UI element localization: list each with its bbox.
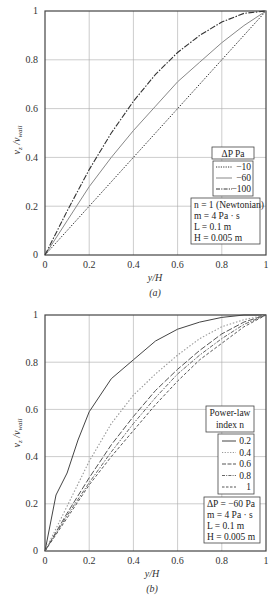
svg-text:−60: −60 bbox=[236, 173, 251, 183]
panel-b-y-ticks: 0 0.2 0.4 0.6 0.8 1 bbox=[26, 309, 39, 556]
svg-text:1: 1 bbox=[246, 482, 251, 492]
svg-text:0.8: 0.8 bbox=[26, 54, 39, 65]
panel-a: 0 0.2 0.4 0.6 0.8 1 0 0.2 0.4 0.6 0.8 1 … bbox=[11, 5, 269, 299]
svg-text:0.6: 0.6 bbox=[26, 404, 39, 415]
svg-text:0.4: 0.4 bbox=[26, 152, 39, 163]
svg-text:0: 0 bbox=[33, 249, 38, 260]
svg-text:n = 1 (Newtonian): n = 1 (Newtonian) bbox=[194, 200, 264, 211]
svg-text:Power-law: Power-law bbox=[210, 408, 251, 418]
svg-text:H = 0.005 m: H = 0.005 m bbox=[207, 532, 256, 542]
panel-a-y-label: vz /vwall bbox=[11, 125, 24, 154]
panel-b-x-ticks: 0 0.2 0.4 0.6 0.8 1 bbox=[43, 555, 269, 566]
svg-text:0.4: 0.4 bbox=[127, 555, 140, 566]
panel-a-params-box: n = 1 (Newtonian) m = 4 Pa · s L = 0.1 m… bbox=[191, 198, 264, 244]
svg-text:L = 0.1 m: L = 0.1 m bbox=[194, 222, 232, 232]
figure: 0 0.2 0.4 0.6 0.8 1 0 0.2 0.4 0.6 0.8 1 … bbox=[0, 0, 277, 600]
svg-text:0.2: 0.2 bbox=[26, 498, 39, 509]
svg-text:1: 1 bbox=[33, 309, 38, 320]
panel-b-x-label: y/H bbox=[144, 568, 160, 579]
panel-b-y-label: vz /vwall bbox=[11, 418, 24, 447]
svg-text:0.4: 0.4 bbox=[26, 451, 39, 462]
svg-text:0.6: 0.6 bbox=[171, 259, 184, 270]
svg-text:m = 4 Pa · s: m = 4 Pa · s bbox=[207, 510, 253, 520]
svg-text:−100: −100 bbox=[231, 184, 251, 194]
svg-text:0.8: 0.8 bbox=[216, 259, 229, 270]
panel-a-x-ticks: 0 0.2 0.4 0.6 0.8 1 bbox=[43, 259, 269, 270]
svg-text:ΔP = −60 Pa: ΔP = −60 Pa bbox=[207, 499, 256, 509]
legend-title: ΔP Pa bbox=[222, 149, 246, 159]
panel-b: 0 0.2 0.4 0.6 0.8 1 0 0.2 0.4 0.6 0.8 1 … bbox=[11, 309, 269, 595]
svg-text:0.6: 0.6 bbox=[171, 555, 184, 566]
svg-text:0.2: 0.2 bbox=[83, 259, 96, 270]
svg-text:0: 0 bbox=[43, 259, 48, 270]
panel-a-x-label: y/H bbox=[147, 272, 163, 283]
svg-text:0: 0 bbox=[43, 555, 48, 566]
svg-text:0.2: 0.2 bbox=[26, 201, 39, 212]
svg-text:−10: −10 bbox=[236, 162, 251, 172]
svg-text:1: 1 bbox=[264, 555, 269, 566]
svg-text:0.6: 0.6 bbox=[239, 459, 251, 469]
svg-text:0.8: 0.8 bbox=[239, 471, 251, 481]
svg-text:0.2: 0.2 bbox=[239, 436, 251, 446]
svg-text:H = 0.005 m: H = 0.005 m bbox=[194, 233, 243, 243]
svg-text:1: 1 bbox=[33, 5, 38, 16]
svg-text:0: 0 bbox=[33, 545, 38, 556]
panel-a-caption: (a) bbox=[149, 287, 161, 299]
panel-b-legend: Power-law index n 0.2 0.4 0.6 0.8 1 bbox=[206, 406, 254, 494]
svg-text:0.6: 0.6 bbox=[26, 103, 39, 114]
svg-text:0.4: 0.4 bbox=[239, 448, 251, 458]
svg-text:0.4: 0.4 bbox=[127, 259, 140, 270]
panel-a-y-ticks: 0 0.2 0.4 0.6 0.8 1 bbox=[26, 5, 39, 260]
svg-text:L = 0.1 m: L = 0.1 m bbox=[207, 521, 245, 531]
svg-text:0.2: 0.2 bbox=[83, 555, 96, 566]
panel-a-legend: ΔP Pa −10 −60 −100 bbox=[212, 147, 254, 196]
panel-b-params-box: ΔP = −60 Pa m = 4 Pa · s L = 0.1 m H = 0… bbox=[204, 497, 260, 543]
svg-text:0.8: 0.8 bbox=[26, 357, 39, 368]
svg-text:index n: index n bbox=[216, 420, 244, 430]
svg-text:0.8: 0.8 bbox=[216, 555, 229, 566]
svg-text:m = 4 Pa · s: m = 4 Pa · s bbox=[194, 211, 240, 221]
panel-b-caption: (b) bbox=[146, 583, 158, 595]
svg-text:1: 1 bbox=[264, 259, 269, 270]
